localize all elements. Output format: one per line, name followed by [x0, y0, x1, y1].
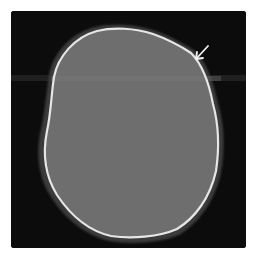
- ct-scan-image: [11, 11, 246, 248]
- brain-region: [45, 29, 218, 238]
- brain-artifact-band: [51, 76, 221, 81]
- ct-scan-panel: [11, 11, 246, 248]
- figure-canvas: Axial CT slice of a skull (bone window) …: [0, 0, 258, 258]
